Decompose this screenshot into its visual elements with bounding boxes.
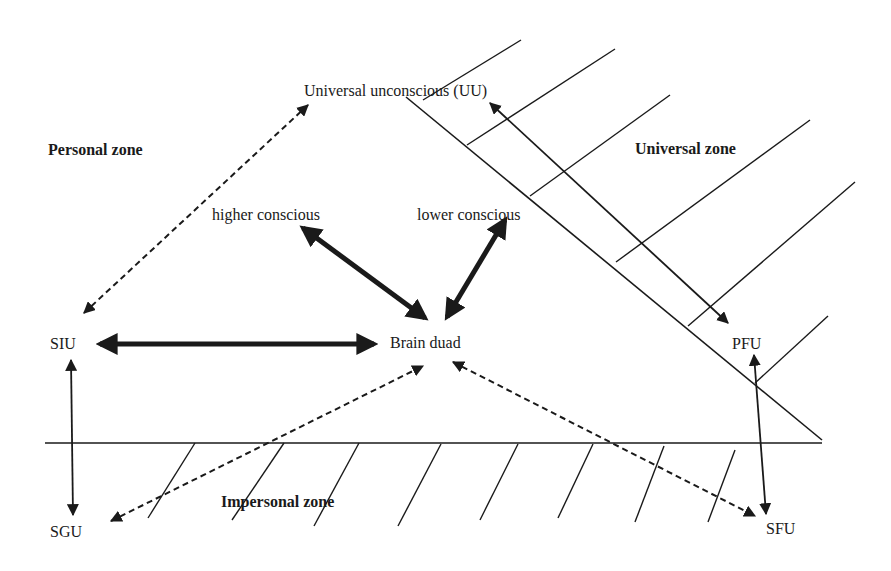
pfu-label: PFU: [732, 336, 761, 352]
arrow-uu-pfu: [490, 103, 728, 323]
arrow-higher-conscious-brain-duad: [303, 228, 425, 318]
sfu-label: SFU: [766, 521, 795, 537]
impersonal-zone-label: Impersonal zone: [221, 494, 334, 510]
impersonal-zone-hatching: [148, 443, 735, 526]
sgu-label: SGU: [50, 524, 82, 540]
siu-label: SIU: [50, 336, 76, 352]
universal-zone-boundary: [406, 97, 822, 440]
thick-arrows: [100, 220, 505, 344]
universal-zone-label: Universal zone: [635, 141, 736, 157]
arrow-siu-sgu: [71, 360, 73, 515]
brain-duad-label: Brain duad: [390, 335, 461, 351]
arrow-brain-duad-sfu: [453, 362, 755, 516]
personal-zone-label: Personal zone: [48, 142, 143, 158]
arrow-lower-conscious-brain-duad: [447, 220, 505, 317]
uu-label: Universal unconscious (UU): [304, 83, 487, 99]
lower-conscious-label: lower conscious: [417, 207, 521, 223]
higher-conscious-label: higher conscious: [212, 207, 320, 223]
diagram-canvas: Universal unconscious (UU) Personal zone…: [0, 0, 891, 571]
